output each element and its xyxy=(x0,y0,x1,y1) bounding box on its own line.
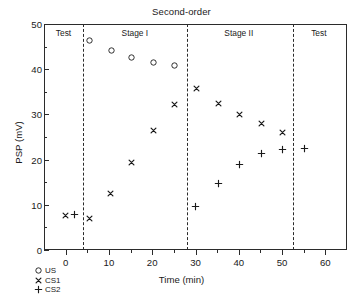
y-tick-minor-15 xyxy=(44,182,47,183)
y-tick-label-0: 0 xyxy=(18,245,42,256)
y-tick-minor-5 xyxy=(44,227,47,228)
x-tick-label-40: 40 xyxy=(233,257,244,268)
legend-label: CS1 xyxy=(45,276,61,286)
x-tick-60 xyxy=(325,250,326,255)
plus-icon xyxy=(34,285,45,295)
chart-title: Second-order xyxy=(0,6,363,17)
y-tick-label-50: 50 xyxy=(18,19,42,30)
x-tick-minor-15 xyxy=(131,250,132,253)
legend-label: CS2 xyxy=(45,285,61,295)
chart-legend: USCS1CS2 xyxy=(34,266,61,295)
x-tick-40 xyxy=(239,250,240,255)
phase-label-3: Stage II xyxy=(224,28,253,38)
y-tick-10 xyxy=(44,205,49,206)
y-tick-minor-45 xyxy=(44,47,47,48)
x-tick-label-20: 20 xyxy=(147,257,158,268)
x-tick-label-50: 50 xyxy=(277,257,288,268)
x-tick-30 xyxy=(196,250,197,255)
legend-item-us: US xyxy=(34,266,61,276)
x-tick-label-60: 60 xyxy=(320,257,331,268)
x-tick-0 xyxy=(66,250,67,255)
x-tick-10 xyxy=(109,250,110,255)
y-tick-label-40: 40 xyxy=(18,64,42,75)
x-tick-label-0: 0 xyxy=(63,257,68,268)
y-tick-minor-35 xyxy=(44,92,47,93)
legend-label: US xyxy=(45,266,56,276)
y-tick-label-10: 10 xyxy=(18,199,42,210)
x-tick-20 xyxy=(152,250,153,255)
x-tick-label-10: 10 xyxy=(104,257,115,268)
y-tick-minor-25 xyxy=(44,137,47,138)
y-axis-label: PSP (mV) xyxy=(13,103,24,183)
y-tick-50 xyxy=(44,24,49,25)
y-tick-0 xyxy=(44,250,49,251)
x-tick-50 xyxy=(282,250,283,255)
circle-icon xyxy=(34,266,45,276)
phase-label-2: Stage I xyxy=(122,28,149,38)
phase-divider-3 xyxy=(293,24,294,250)
phase-label-4: Test xyxy=(311,28,326,38)
y-tick-20 xyxy=(44,160,49,161)
legend-item-cs1: CS1 xyxy=(34,276,61,286)
legend-item-cs2: CS2 xyxy=(34,285,61,295)
phase-divider-2 xyxy=(187,24,188,250)
x-tick-minor-45 xyxy=(260,250,261,253)
chart-figure: Second-order TestStage IStage IITest 010… xyxy=(0,0,363,308)
y-tick-40 xyxy=(44,69,49,70)
phase-label-1: Test xyxy=(56,28,71,38)
phase-divider-1 xyxy=(83,24,84,250)
x-tick-minor-5 xyxy=(87,250,88,253)
plot-area xyxy=(44,24,347,250)
x-tick-minor-25 xyxy=(174,250,175,253)
x-tick-minor-55 xyxy=(304,250,305,253)
cross-x-icon xyxy=(34,276,45,286)
x-tick-label-30: 30 xyxy=(190,257,201,268)
y-tick-30 xyxy=(44,114,49,115)
x-tick-minor-35 xyxy=(217,250,218,253)
